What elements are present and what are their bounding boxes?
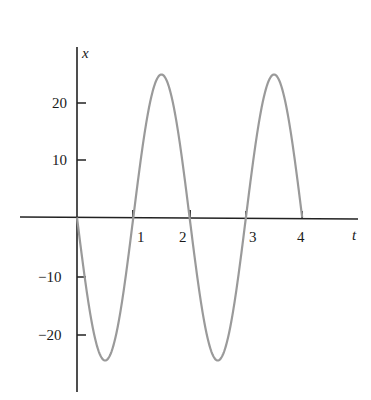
x-tick-label: 1 — [137, 229, 145, 245]
x-axis-label: t — [352, 227, 357, 243]
line-chart: x t 20 10 −10 −20 1 2 3 4 — [0, 0, 371, 400]
y-tick-label: 10 — [52, 152, 67, 168]
x-tick-label: 2 — [179, 229, 187, 245]
y-tick-label: −10 — [38, 269, 61, 285]
x-tick-label: 3 — [249, 229, 257, 245]
y-axis-label: x — [81, 45, 89, 61]
x-tick-label: 4 — [297, 229, 305, 245]
y-tick-label: −20 — [38, 327, 61, 343]
y-tick-label: 20 — [52, 95, 67, 111]
